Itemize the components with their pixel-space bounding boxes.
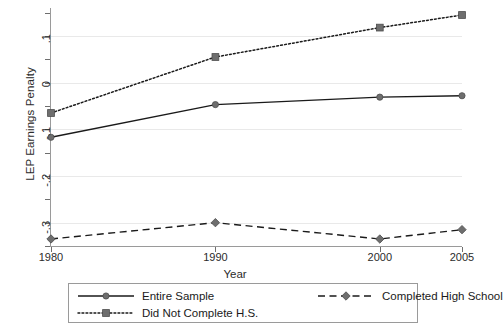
legend-row-second: Did Not Complete H.S. — [77, 304, 258, 322]
legend-label-completed-high-school: Completed High School — [382, 290, 503, 302]
legend-label-did-not-complete-hs: Did Not Complete H.S. — [142, 307, 258, 319]
x-axis-title: Year — [0, 268, 470, 280]
legend-key-marker — [342, 292, 350, 300]
legend-key-entire-sample — [77, 289, 135, 303]
legend-key-did-not-complete-hs — [77, 306, 135, 320]
data-series-layer — [47, 12, 466, 244]
data-point-1980 — [48, 110, 55, 117]
data-point-2000 — [376, 235, 384, 243]
y-tick-label-0: .1 — [40, 34, 52, 60]
x-tick-label-2000: 2000 — [350, 251, 410, 263]
data-point-2005 — [458, 225, 466, 233]
legend-key-marker — [103, 293, 109, 299]
legend-key-marker — [103, 310, 110, 317]
data-point-2005 — [459, 12, 466, 19]
legend-entry-entire-sample[interactable]: Entire Sample — [77, 287, 214, 305]
series-entire-sample — [48, 93, 465, 141]
legend-entry-did-not-complete-hs[interactable]: Did Not Complete H.S. — [77, 304, 258, 322]
legend-row-first: Entire Sample — [77, 287, 214, 305]
legend-entry-completed-high-school[interactable]: Completed High School — [317, 287, 503, 305]
series-did-not-complete-h-s — [48, 12, 466, 117]
y-tick-label-1: 0 — [40, 81, 52, 107]
x-tick-label-1980: 1980 — [21, 251, 81, 263]
legend-key-glyph — [77, 306, 135, 320]
series-line — [51, 96, 462, 138]
y-tick-label-3: -.2 — [40, 174, 52, 200]
legend-label-entire-sample: Entire Sample — [142, 290, 214, 302]
data-point-1990 — [212, 54, 219, 61]
data-point-2000 — [377, 94, 383, 100]
legend-key-glyph — [77, 289, 135, 303]
data-point-1990 — [211, 218, 219, 226]
x-tick-label-1990: 1990 — [185, 251, 245, 263]
x-tick-label-2005: 2005 — [432, 251, 492, 263]
chart-legend: Entire Sample Completed High School Did … — [68, 283, 418, 323]
data-point-1990 — [212, 102, 218, 108]
y-axis-title: LEP Earnings Penalty — [24, 24, 36, 224]
series-line — [51, 223, 462, 239]
y-tick-label-4: -.3 — [40, 221, 52, 247]
legend-key-glyph — [317, 289, 375, 303]
legend-key-completed-high-school — [317, 289, 375, 303]
gridlines — [51, 37, 462, 224]
data-point-2000 — [376, 24, 383, 31]
series-line — [51, 15, 462, 113]
data-point-2005 — [459, 93, 465, 99]
series-completed-high-school — [47, 218, 466, 243]
y-tick-label-2: -.1 — [40, 127, 52, 153]
